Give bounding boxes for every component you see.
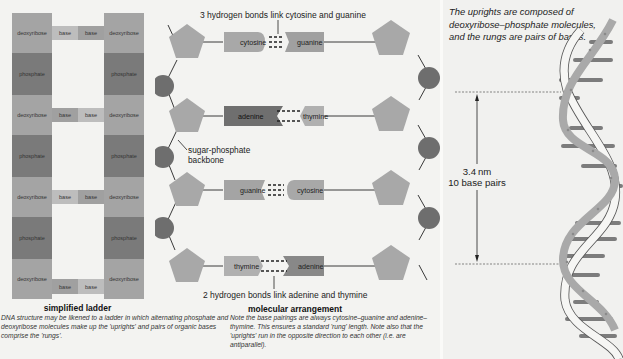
deoxyribose-block: deoxyribose — [104, 95, 144, 135]
phosphate-block: phosphate — [12, 53, 52, 95]
base-block: base — [78, 26, 104, 40]
front-strand — [563, 20, 615, 330]
double-helix-panel: The uprights are composed of deoxyribose… — [440, 0, 623, 359]
deoxyribose-block: deoxyribose — [12, 259, 52, 299]
base-label-thymine: thymine — [303, 112, 328, 121]
base-label-adenine: adenine — [238, 112, 264, 121]
base-block: base — [78, 279, 104, 294]
deoxyribose-pentagon — [372, 245, 410, 280]
deoxyribose-block: deoxyribose — [12, 13, 52, 53]
base-label-cytosine: cytosine — [297, 186, 323, 195]
base-label-thymine: thymine — [234, 262, 259, 271]
ladder-phosphate-row: phosphate phosphate — [12, 135, 144, 177]
deoxyribose-pentagon — [372, 20, 410, 55]
base-block: base — [52, 108, 78, 122]
annotation-three-bonds: 3 hydrogen bonds link cytosine and guani… — [200, 10, 366, 20]
phosphate-circle — [155, 217, 174, 239]
base-block: base — [52, 190, 78, 204]
phosphate-circle — [418, 67, 440, 89]
base-block: base — [78, 190, 104, 204]
molecular-description: Note the base pairings are always cytosi… — [230, 313, 435, 349]
ladder-phosphate-row: phosphate phosphate — [12, 53, 144, 95]
deoxyribose-block: deoxyribose — [104, 259, 144, 299]
helix-measurement: 3.4 nm 10 base pairs — [445, 166, 509, 188]
ladder-sugar-row: deoxyribose base base deoxyribose — [12, 95, 144, 135]
deoxyribose-pentagon — [169, 172, 205, 206]
deoxyribose-pentagon — [372, 96, 410, 131]
backbone-label: sugar-phosphate backbone — [188, 145, 250, 165]
phosphate-circle — [155, 75, 174, 97]
helix-distance: 3.4 nm — [445, 166, 509, 177]
backbone-label-line1: sugar-phosphate — [188, 145, 250, 155]
deoxyribose-pentagon — [372, 170, 410, 205]
deoxyribose-pentagon — [169, 24, 205, 58]
ladder-sugar-row: deoxyribose base base deoxyribose — [12, 177, 144, 217]
ladder-phosphate-row: phosphate phosphate — [12, 217, 144, 259]
base-label-adenine: adenine — [298, 262, 324, 271]
phosphate-block: phosphate — [104, 217, 144, 259]
helix-base-pairs: 10 base pairs — [445, 177, 509, 188]
deoxyribose-block: deoxyribose — [104, 177, 144, 217]
base-block: base — [52, 26, 78, 40]
ladder-sugar-row: deoxyribose base base deoxyribose — [12, 13, 144, 53]
base-label-guanine: guanine — [297, 38, 323, 47]
ladder-description: DNA structure may be likened to a ladder… — [1, 313, 231, 340]
deoxyribose-block: deoxyribose — [12, 177, 52, 217]
phosphate-circle — [418, 207, 440, 229]
annotation-two-bonds: 2 hydrogen bonds link adenine and thymin… — [203, 290, 367, 300]
ladder-sugar-row: deoxyribose base base deoxyribose — [12, 259, 144, 299]
deoxyribose-pentagon — [169, 248, 205, 282]
phosphate-block: phosphate — [104, 135, 144, 177]
simplified-ladder-panel: deoxyribose base base deoxyribose phosph… — [0, 0, 155, 359]
phosphate-circle — [418, 137, 440, 159]
deoxyribose-block: deoxyribose — [104, 13, 144, 53]
base-label-cytosine: cytosine — [240, 38, 266, 47]
base-block: base — [78, 108, 104, 122]
base-block: base — [52, 279, 78, 294]
phosphate-block: phosphate — [12, 217, 52, 259]
backbone-label-line2: backbone — [188, 155, 250, 165]
deoxyribose-block: deoxyribose — [12, 95, 52, 135]
phosphate-circle — [155, 146, 174, 168]
base-label-guanine: guanine — [240, 186, 266, 195]
ladder-title: simplified ladder — [0, 303, 155, 313]
deoxyribose-pentagon — [169, 98, 205, 132]
phosphate-block: phosphate — [104, 53, 144, 95]
molecular-arrangement-panel: cytosine guanine adenine thymine guanine… — [155, 0, 440, 359]
phosphate-block: phosphate — [12, 135, 52, 177]
